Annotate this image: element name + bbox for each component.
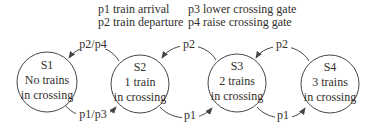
state-diagram-figure: p1 train arrival p2 train departure p3 l… [0, 0, 379, 131]
state-line2: in crossing [114, 90, 166, 104]
state-line1: 3 trains [312, 75, 348, 89]
state-line1: 1 train [125, 75, 156, 89]
state-line2: in crossing [21, 88, 73, 102]
legend-item-p4: p4 raise crossing gate [188, 15, 292, 29]
transition-label-p2p4: p2/p4 [79, 37, 106, 51]
state-id: S3 [231, 59, 244, 73]
state-line1: 2 trains [219, 74, 255, 88]
state-line2: in crossing [304, 90, 356, 104]
transition-label-p1-b: p1 [277, 108, 289, 122]
legend-item-p2: p2 train departure [98, 15, 183, 29]
state-id: S4 [324, 60, 337, 74]
state-line2: in crossing [211, 89, 263, 103]
transition-label-p1-a: p1 [184, 108, 196, 122]
state-line1: No trains [25, 73, 70, 87]
state-id: S2 [134, 60, 147, 74]
state-diagram-svg: p1 train arrival p2 train departure p3 l… [0, 0, 379, 131]
transition-label-p2-b: p2 [276, 37, 288, 51]
transition-label-p2-a: p2 [183, 37, 195, 51]
legend: p1 train arrival p2 train departure p3 l… [98, 2, 296, 29]
state-id: S1 [41, 58, 54, 72]
transition-label-p1p3: p1/p3 [79, 107, 106, 121]
